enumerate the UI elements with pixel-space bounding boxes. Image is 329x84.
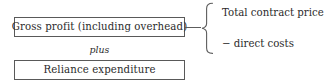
label-direct-costs: − direct costs xyxy=(222,39,294,49)
curly-brace-glyph xyxy=(197,1,215,56)
box-reliance-expenditure: Reliance expenditure xyxy=(14,60,185,80)
box-gross-profit: Gross profit (including overhead) xyxy=(14,17,185,37)
operator-plus-label: plus xyxy=(90,45,110,54)
label-total-contract-price: Total contract price xyxy=(222,8,324,18)
box-gross-profit-label: Gross profit (including overhead) xyxy=(12,22,187,32)
curly-brace-right-icon xyxy=(197,1,215,56)
formula-diagram: Gross profit (including overhead) plus R… xyxy=(0,0,329,84)
box-reliance-expenditure-label: Reliance expenditure xyxy=(43,65,155,75)
operator-plus: plus xyxy=(14,41,185,58)
